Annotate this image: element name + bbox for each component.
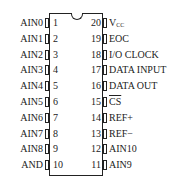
- pin-label: AIN9: [109, 159, 132, 171]
- pin-label: DATA INPUT: [109, 64, 166, 76]
- pin-right: [103, 18, 107, 28]
- pin-number: 7: [53, 112, 58, 124]
- pin-number: 8: [53, 128, 58, 140]
- pin-left: [45, 160, 49, 170]
- pin-label: I/O CLOCK: [109, 49, 159, 61]
- pin-right: [103, 97, 107, 107]
- pin-label: VCC: [109, 17, 124, 31]
- pin-right: [103, 65, 107, 75]
- pin-left: [45, 18, 49, 28]
- pin-left: [45, 81, 49, 91]
- pin-number: 6: [53, 96, 58, 108]
- pin-label: AIN8: [20, 143, 43, 155]
- pin-label: CS: [109, 96, 121, 108]
- pin-left: [45, 65, 49, 75]
- pin-number: 4: [53, 64, 58, 76]
- pin-number: 12: [91, 143, 101, 155]
- pin-number: 10: [53, 159, 63, 171]
- pin-right: [103, 113, 107, 123]
- pin-number: 20: [91, 17, 101, 29]
- pin-label: AIN6: [20, 112, 43, 124]
- pin-number: 2: [53, 33, 58, 45]
- pin-label: AND: [21, 159, 43, 171]
- pin-label: AIN2: [20, 49, 43, 61]
- pin-label: REF+: [109, 112, 133, 124]
- pin-number: 14: [91, 112, 101, 124]
- pin-left: [45, 34, 49, 44]
- pin-number: 5: [53, 80, 58, 92]
- pin-left: [45, 129, 49, 139]
- pin-number: 18: [91, 49, 101, 61]
- pin-left: [45, 113, 49, 123]
- pin-number: 15: [91, 96, 101, 108]
- pin-label: EOC: [109, 33, 129, 45]
- pin-label: AIN10: [109, 143, 137, 155]
- pin-right: [103, 50, 107, 60]
- pin-right: [103, 144, 107, 154]
- pin-number: 3: [53, 49, 58, 61]
- pin-number: 19: [91, 33, 101, 45]
- pin-right: [103, 34, 107, 44]
- pin-label: REF−: [109, 128, 133, 140]
- pin-right: [103, 160, 107, 170]
- pin-number: 11: [91, 159, 101, 171]
- pin-number: 17: [91, 64, 101, 76]
- pin-left: [45, 144, 49, 154]
- pin-left: [45, 97, 49, 107]
- pin-label-subscript: CC: [116, 22, 124, 28]
- pin-label: AIN7: [20, 128, 43, 140]
- pin-label: AIN1: [20, 33, 43, 45]
- pin-label: AIN3: [20, 64, 43, 76]
- pin-label: AIN0: [20, 17, 43, 29]
- pin-right: [103, 129, 107, 139]
- pin-number: 9: [53, 143, 58, 155]
- pin-left: [45, 50, 49, 60]
- pin-number: 16: [91, 80, 101, 92]
- pin-label: AIN5: [20, 96, 43, 108]
- pin-label: DATA OUT: [109, 80, 157, 92]
- pin-right: [103, 81, 107, 91]
- pin-number: 13: [91, 128, 101, 140]
- pin-label: AIN4: [20, 80, 43, 92]
- pin-number: 1: [53, 17, 58, 29]
